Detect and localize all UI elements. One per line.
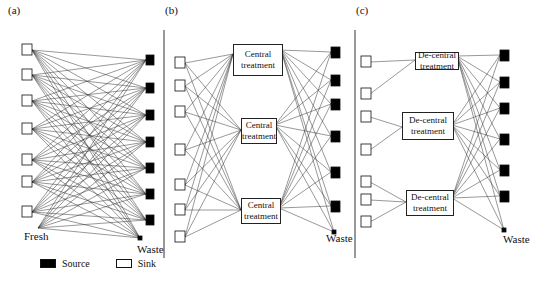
decentral-treatment-3: De-central treatment [406,190,454,216]
decentral-treatment-2: De-central treatment [402,112,454,140]
legend-sink: Sink [138,258,156,269]
network-diagram: (a) (b) (c) Fresh Waste Waste Waste Cent… [0,0,548,284]
central-treatment-1: Central treatment [233,44,283,76]
panel-c-label: (c) [356,4,368,16]
fresh-label: Fresh [24,230,48,242]
waste-label-b: Waste [326,232,353,244]
sink-swatch-icon [116,259,132,268]
decentral-treatment-1: De-central treatment [415,52,459,70]
waste-label-c: Waste [503,233,530,245]
panel-a-label: (a) [8,4,20,16]
legend: Source Sink [40,258,156,269]
panel-b-label: (b) [165,4,178,16]
central-treatment-2: Central treatment [241,118,277,144]
legend-source: Source [62,258,90,269]
source-swatch-icon [40,259,56,268]
waste-label-a: Waste [137,243,164,255]
central-treatment-3: Central treatment [241,198,281,224]
